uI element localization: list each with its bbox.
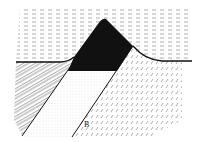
cross-section-diagram [0,0,198,142]
label-b: B [84,120,89,129]
